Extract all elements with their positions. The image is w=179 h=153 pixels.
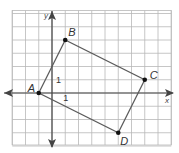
vertex-a (36, 91, 41, 96)
annotations: 1 1 (56, 75, 68, 104)
vertex-label-b: B (68, 26, 75, 38)
vertex-c (142, 77, 147, 82)
vertex-label-a: A (27, 82, 35, 94)
coordinate-plane: x y ABCD 1 1 (0, 0, 179, 153)
vertex-label-d: D (120, 135, 128, 147)
unit-label-y: 1 (56, 75, 61, 85)
polygon-abcd: ABCD (27, 26, 158, 147)
unit-label-x: 1 (63, 93, 68, 103)
vertex-label-c: C (150, 69, 158, 81)
x-axis-label: x (164, 96, 170, 105)
vertex-b (63, 38, 68, 43)
grid (12, 11, 171, 147)
y-axis-label: y (43, 11, 49, 20)
